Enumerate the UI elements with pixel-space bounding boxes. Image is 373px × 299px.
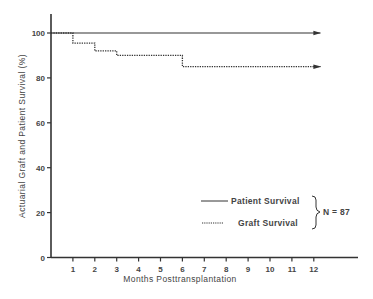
x-tick-label: 4: [136, 265, 141, 274]
y-tick-label: 40: [36, 164, 45, 173]
graft-survival-line: [51, 33, 320, 67]
x-tick-label: 10: [266, 265, 275, 274]
legend: Patient Survival Graft Survival N = 87: [201, 196, 350, 229]
x-tick-label: 12: [309, 265, 318, 274]
y-tick-label: 0: [41, 254, 46, 263]
x-tick-label: 8: [224, 265, 229, 274]
legend-brace: [312, 196, 320, 229]
x-ticks: 123456789101112: [71, 258, 319, 274]
x-tick-label: 11: [288, 265, 297, 274]
y-tick-label: 60: [36, 119, 45, 128]
x-axis-title: Months Posttransplantation: [123, 274, 236, 284]
y-tick-label: 80: [36, 74, 45, 83]
y-ticks: 020406080100: [32, 29, 51, 263]
x-tick-label: 2: [93, 265, 98, 274]
x-tick-label: 5: [158, 265, 163, 274]
x-tick-label: 6: [180, 265, 185, 274]
x-tick-label: 1: [71, 265, 76, 274]
sample-size-label: N = 87: [323, 207, 350, 217]
x-tick-label: 9: [246, 265, 251, 274]
y-tick-label: 20: [36, 209, 45, 218]
y-tick-label: 100: [32, 29, 46, 38]
legend-patient-label: Patient Survival: [231, 196, 300, 206]
x-tick-label: 7: [202, 265, 207, 274]
survival-chart: 020406080100 123456789101112 Actuarial G…: [0, 0, 373, 299]
y-axis-title: Actuarial Graft and Patient Survival (%): [17, 54, 27, 218]
x-tick-label: 3: [114, 265, 119, 274]
legend-graft-label: Graft Survival: [238, 218, 298, 228]
